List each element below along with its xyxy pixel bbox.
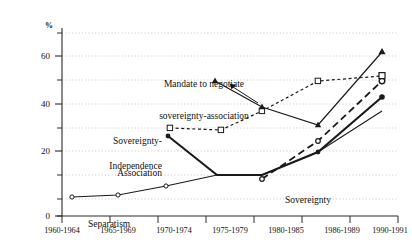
y-tick-0: 0 (46, 211, 51, 221)
annotation-separatism-line1: Separatism (88, 219, 178, 230)
y-axis-unit-label: % (45, 21, 53, 30)
annotation-sovereignty-line1: Sovereignty (285, 195, 375, 206)
chart-figure: % 60 40 20 0 1960-1964 1965-1969 1970-19… (0, 0, 412, 247)
x-tick-label-1990-1991: 1990-1991 (372, 226, 407, 235)
annotation-independence-line1: Independence (62, 161, 162, 172)
x-tick-label-1975-1979: 1975-1979 (212, 226, 247, 235)
y-tick-60: 60 (41, 51, 51, 61)
series-sovereignty (260, 78, 385, 181)
x-tick-label-1986-1989: 1986-1989 (324, 226, 359, 235)
annotation-separatism: Separatism (88, 198, 178, 247)
y-tick-40: 40 (41, 99, 51, 109)
annotation-sovereignty: Sovereignty (285, 174, 375, 227)
x-tick-label-1980-1985: 1980-1985 (268, 226, 303, 235)
y-tick-20: 20 (41, 146, 51, 156)
annotation-mandate-line1: Mandate to negotiate (140, 79, 268, 90)
x-tick-label-1960-1964: 1960-1964 (44, 226, 79, 235)
annotation-independence: Independence (62, 140, 162, 193)
